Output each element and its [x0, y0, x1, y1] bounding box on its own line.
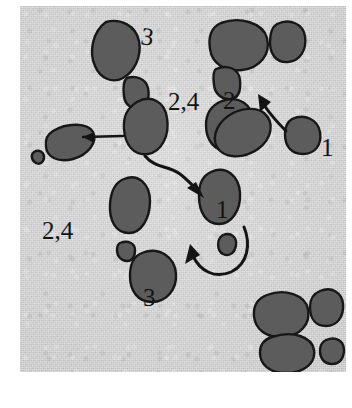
blob-group	[32, 20, 344, 372]
blob-left-dot	[32, 151, 44, 164]
blob-bottom-right-b	[310, 289, 343, 326]
label-24-upper: 2,4	[168, 88, 200, 115]
blob-left-ellipse	[46, 125, 95, 161]
blob-lower-left-chip	[117, 242, 135, 261]
blob-upper-mid	[124, 99, 168, 154]
blob-bottom-right-c	[260, 334, 314, 372]
blob-right-cap	[270, 22, 305, 62]
label-24-lower: 2,4	[42, 217, 74, 244]
figure-page: 3 2,4 2 1 1 2,4 3	[0, 0, 352, 408]
annotation-group: 3 2,4 2 1 1 2,4 3	[42, 22, 334, 311]
blob-top-right-large	[209, 20, 267, 70]
label-3-top: 3	[139, 22, 155, 50]
blob-center-dot	[218, 234, 236, 255]
label-1-center: 1	[216, 196, 229, 223]
arrow-right-up-arrowhead	[258, 94, 271, 112]
arrow-u-curve-arrowhead	[185, 244, 200, 264]
blob-bottom-right-d	[320, 339, 344, 364]
label-3-bottom: 3	[143, 284, 156, 311]
label-1-right: 1	[321, 134, 334, 161]
blob-right-d	[285, 117, 320, 154]
label-2-right: 2	[223, 87, 236, 114]
blob-bottom-right-a	[254, 292, 309, 337]
figure-artwork: 3 2,4 2 1 1 2,4 3	[20, 6, 346, 372]
blob-lower-left-oval	[110, 177, 150, 233]
scan-plate: 3 2,4 2 1 1 2,4 3	[20, 6, 346, 372]
blob-top-left-large	[92, 21, 140, 80]
